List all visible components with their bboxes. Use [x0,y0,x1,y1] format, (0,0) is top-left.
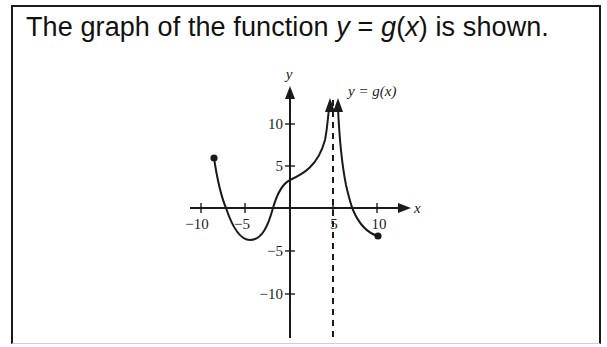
x-axis [190,203,411,213]
x-axis-label: x [413,200,421,216]
right-endpoint-dot [374,232,381,239]
y-axis-label: y [284,66,293,82]
y-tick-label: −5 [267,243,283,259]
y-tick-label: −10 [260,286,283,302]
curve-label: y = g(x) [346,83,396,100]
y-tick-label: 10 [268,116,283,132]
y-axis-arrow-icon [285,86,295,99]
x-tick-label: −10 [185,216,208,232]
x-tick-label: 10 [372,216,387,232]
y-axis [285,86,295,338]
right-branch-arrow-icon [333,98,343,112]
left-endpoint-dot [210,154,217,161]
function-graph: x −10 −5 5 10 y 10 5 −5 −10 y = g(x) [0,0,607,347]
y-tick-label: 5 [276,158,284,174]
x-axis-arrow-icon [398,203,411,213]
